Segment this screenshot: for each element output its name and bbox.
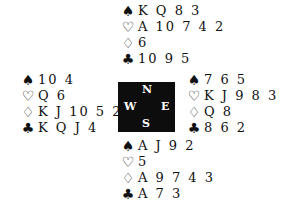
north-diamonds: 6 xyxy=(138,35,148,51)
south-spades: A J 9 2 xyxy=(138,138,196,154)
spade-icon: ♠ xyxy=(187,72,201,88)
south-diamonds-row: ♢A 9 7 4 3 xyxy=(121,170,215,186)
north-clubs-row: ♣10 9 5 xyxy=(121,51,225,67)
spade-icon: ♠ xyxy=(121,3,135,19)
club-icon: ♣ xyxy=(187,120,201,136)
south-hand: ♠A J 9 2 ♡5 ♢A 9 7 4 3 ♣A 7 3 xyxy=(121,138,215,202)
west-hearts: Q 6 xyxy=(38,88,67,104)
south-diamonds: A 9 7 4 3 xyxy=(138,170,215,186)
west-clubs: K Q J 4 xyxy=(38,120,98,136)
east-hearts: K J 9 8 3 xyxy=(204,88,278,104)
south-spades-row: ♠A J 9 2 xyxy=(121,138,215,154)
west-hand: ♠10 4 ♡Q 6 ♢K J 10 5 2 ♣K Q J 4 xyxy=(21,72,123,136)
west-clubs-row: ♣K Q J 4 xyxy=(21,120,123,136)
north-spades-row: ♠K Q 8 3 xyxy=(121,3,225,19)
heart-icon: ♡ xyxy=(21,88,35,104)
diamond-icon: ♢ xyxy=(121,35,135,51)
spade-icon: ♠ xyxy=(121,138,135,154)
east-diamonds-row: ♢Q 8 xyxy=(187,104,278,120)
diamond-icon: ♢ xyxy=(187,104,201,120)
north-hand: ♠K Q 8 3 ♡A 10 7 4 2 ♢6 ♣10 9 5 xyxy=(121,3,225,67)
north-diamonds-row: ♢6 xyxy=(121,35,225,51)
club-icon: ♣ xyxy=(121,186,135,202)
compass-east-label: E xyxy=(161,100,169,113)
heart-icon: ♡ xyxy=(187,88,201,104)
heart-icon: ♡ xyxy=(121,154,135,170)
north-hearts: A 10 7 4 2 xyxy=(138,19,225,35)
west-hearts-row: ♡Q 6 xyxy=(21,88,123,104)
club-icon: ♣ xyxy=(21,120,35,136)
club-icon: ♣ xyxy=(121,51,135,67)
east-clubs-row: ♣8 6 2 xyxy=(187,120,278,136)
west-diamonds-row: ♢K J 10 5 2 xyxy=(21,104,123,120)
compass-box: N W E S xyxy=(118,82,175,132)
east-spades: 7 6 5 xyxy=(204,72,247,88)
west-spades: 10 4 xyxy=(38,72,75,88)
east-clubs: 8 6 2 xyxy=(204,120,247,136)
south-clubs-row: ♣A 7 3 xyxy=(121,186,215,202)
north-clubs: 10 9 5 xyxy=(138,51,191,67)
east-spades-row: ♠7 6 5 xyxy=(187,72,278,88)
compass-north-label: N xyxy=(142,83,152,96)
south-hearts: 5 xyxy=(138,154,148,170)
west-diamonds: K J 10 5 2 xyxy=(38,104,123,120)
diamond-icon: ♢ xyxy=(121,170,135,186)
north-spades: K Q 8 3 xyxy=(138,3,201,19)
south-hearts-row: ♡5 xyxy=(121,154,215,170)
west-spades-row: ♠10 4 xyxy=(21,72,123,88)
east-hand: ♠7 6 5 ♡K J 9 8 3 ♢Q 8 ♣8 6 2 xyxy=(187,72,278,136)
north-hearts-row: ♡A 10 7 4 2 xyxy=(121,19,225,35)
south-clubs: A 7 3 xyxy=(138,186,182,202)
east-hearts-row: ♡K J 9 8 3 xyxy=(187,88,278,104)
compass-west-label: W xyxy=(124,100,136,113)
spade-icon: ♠ xyxy=(21,72,35,88)
compass-south-label: S xyxy=(142,117,150,130)
diamond-icon: ♢ xyxy=(21,104,35,120)
east-diamonds: Q 8 xyxy=(204,104,233,120)
heart-icon: ♡ xyxy=(121,19,135,35)
